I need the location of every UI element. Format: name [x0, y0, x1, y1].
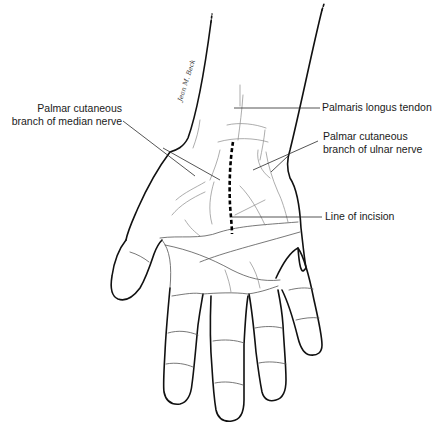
- label-median-line2: branch of median nerve: [8, 115, 122, 128]
- label-ulnar-line2: branch of ulnar nerve: [323, 143, 422, 156]
- label-ulnar-line1: Palmar cutaneous: [323, 130, 422, 143]
- label-median-nerve-branch: Palmar cutaneous branch of median nerve: [8, 102, 122, 128]
- hand-outline: [111, 4, 324, 421]
- label-median-line1: Palmar cutaneous: [8, 102, 122, 115]
- leader-lines: [123, 108, 322, 217]
- incision-line: [230, 142, 233, 234]
- label-line-of-incision: Line of incision: [325, 210, 394, 223]
- label-ulnar-nerve-branch: Palmar cutaneous branch of ulnar nerve: [323, 130, 422, 156]
- leader-median-nerve-2: [163, 148, 220, 180]
- label-palmaris-longus: Palmaris longus tendon: [322, 101, 432, 114]
